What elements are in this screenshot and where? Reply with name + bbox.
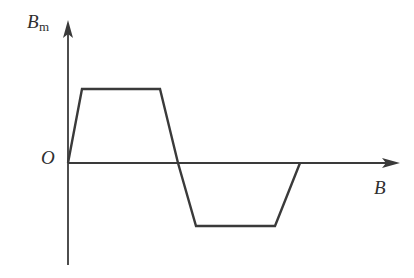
y-axis-label-main: B [27, 11, 39, 32]
y-axis-label: Bm [27, 12, 49, 31]
figure-container: Bm B O [0, 0, 414, 278]
x-axis-label: B [374, 178, 386, 197]
origin-label: O [41, 148, 55, 167]
waveform-chart [0, 0, 414, 278]
waveform-curve [68, 89, 300, 226]
y-axis-label-subscript: m [39, 19, 49, 34]
